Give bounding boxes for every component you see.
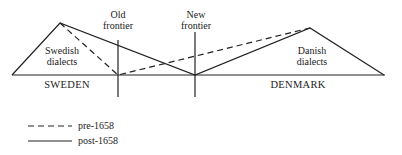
dialect-continuum-diagram: Old frontier New frontier Swedish dialec… xyxy=(0,0,402,155)
denmark-label: DENMARK xyxy=(267,79,329,90)
swedish-dialects-label: Swedish dialects xyxy=(40,45,84,67)
legend-post-1658-label: post-1658 xyxy=(78,135,118,146)
legend-pre-1658-label: pre-1658 xyxy=(78,120,114,131)
sweden-label: SWEDEN xyxy=(42,79,92,90)
new-frontier-label: New frontier xyxy=(178,9,214,31)
danish-dialects-label: Danish dialects xyxy=(290,45,334,67)
old-frontier-label: Old frontier xyxy=(103,9,133,31)
